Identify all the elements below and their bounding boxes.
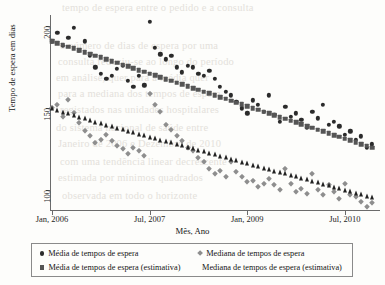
- triangle-data-point: [337, 186, 341, 191]
- triangle-data-point: [175, 141, 179, 146]
- x-tick-label: Jan, 2009: [231, 214, 264, 224]
- triangle-data-point: [66, 111, 70, 116]
- diamond-data-point: [255, 184, 261, 190]
- square-data-point: [93, 53, 98, 58]
- circle-marker-icon: [40, 251, 44, 255]
- diamond-data-point: [157, 109, 163, 115]
- square-data-point: [234, 100, 239, 105]
- square-data-point: [364, 143, 369, 148]
- diamond-data-point: [125, 151, 131, 157]
- diamond-data-point: [212, 171, 218, 177]
- diamond-data-point: [342, 181, 348, 187]
- square-data-point: [185, 84, 190, 89]
- square-data-point: [88, 52, 93, 57]
- circle-data-point: [294, 111, 298, 115]
- square-data-point: [277, 115, 282, 120]
- square-data-point: [305, 124, 310, 129]
- triangle-data-point: [77, 114, 81, 119]
- triangle-data-point: [180, 143, 184, 148]
- triangle-data-point: [213, 152, 217, 157]
- legend-item-label: Média de tempos de espera: [48, 249, 138, 258]
- triangle-data-point: [207, 150, 211, 155]
- square-data-point: [99, 55, 104, 60]
- diamond-data-point: [76, 120, 82, 126]
- circle-data-point: [82, 39, 86, 43]
- y-tick-label: 100: [42, 190, 52, 203]
- x-tick-label: Jul, 2007: [134, 214, 165, 224]
- triangle-data-point: [327, 183, 331, 188]
- circle-data-point: [185, 64, 189, 68]
- square-data-point: [50, 39, 55, 44]
- triangle-data-point: [191, 146, 195, 151]
- diamond-data-point: [60, 113, 66, 119]
- square-data-point: [131, 66, 136, 71]
- circle-data-point: [110, 73, 114, 77]
- circle-data-point: [99, 72, 103, 76]
- triangle-data-point: [256, 164, 260, 169]
- y-tick-label: 200: [42, 26, 52, 39]
- square-data-point: [218, 95, 223, 100]
- square-data-point: [180, 82, 185, 87]
- circle-data-point: [218, 85, 222, 89]
- square-data-point: [71, 46, 76, 51]
- square-data-point: [174, 80, 179, 85]
- square-data-point: [82, 50, 87, 55]
- circle-data-point: [175, 65, 179, 69]
- triangle-data-point: [196, 147, 200, 152]
- plot-area: 200150100 Jan, 2006Jul, 2007Jan, 2009Jul…: [50, 15, 380, 210]
- square-data-point: [337, 134, 342, 139]
- chart-legend: Média de tempos de esperaMédia de tempos…: [31, 243, 353, 277]
- circle-data-point: [310, 110, 314, 114]
- triangle-data-point: [131, 130, 135, 135]
- circle-data-point: [213, 77, 217, 81]
- diamond-data-point: [152, 102, 158, 108]
- square-data-point: [158, 75, 163, 80]
- circle-data-point: [229, 93, 233, 97]
- diamond-data-point: [141, 153, 147, 159]
- triangle-data-point: [289, 172, 293, 177]
- diamond-data-point: [288, 181, 294, 187]
- legend-item-label: Média de tempos de espera (estimativa): [48, 263, 180, 272]
- diamond-data-point: [250, 177, 256, 183]
- diamond-data-point: [315, 187, 321, 193]
- circle-data-point: [115, 67, 119, 71]
- square-data-point: [126, 64, 131, 69]
- legend-item-label: Mediana de tempos de espera: [206, 249, 304, 258]
- diamond-data-point: [147, 91, 153, 97]
- triangle-data-point: [88, 117, 92, 122]
- diamond-marker-icon: [197, 251, 203, 257]
- circle-data-point: [359, 134, 363, 138]
- triangle-data-point: [348, 189, 352, 194]
- diamond-data-point: [271, 182, 277, 188]
- triangle-data-point: [272, 168, 276, 173]
- circle-data-point: [126, 78, 130, 82]
- circle-data-point: [332, 119, 336, 123]
- circle-data-point: [137, 73, 141, 77]
- square-data-point: [61, 43, 66, 48]
- circle-data-point: [267, 93, 271, 97]
- circle-data-point: [169, 54, 173, 58]
- triangle-data-point: [169, 140, 173, 145]
- triangle-data-point: [370, 195, 374, 200]
- triangle-data-point: [305, 177, 309, 182]
- diamond-data-point: [174, 133, 180, 139]
- circle-data-point: [207, 69, 211, 73]
- diamond-data-point: [277, 187, 283, 193]
- square-marker-icon: [40, 265, 44, 269]
- circle-data-point: [326, 123, 330, 127]
- square-data-point: [229, 98, 234, 103]
- x-axis-title: Mês, Ano: [0, 226, 385, 236]
- triangle-data-point: [332, 184, 336, 189]
- circle-data-point: [240, 106, 244, 110]
- diamond-data-point: [81, 128, 87, 134]
- triangle-data-point: [321, 181, 325, 186]
- circle-data-point: [158, 52, 162, 56]
- triangle-data-point: [153, 136, 157, 141]
- triangle-data-point: [218, 153, 222, 158]
- legend-item-label: Mediana de tempos de espera (estimativa): [202, 263, 342, 272]
- triangle-data-point: [278, 169, 282, 174]
- legend-item: Mediana de tempos de espera (estimativa): [198, 263, 342, 272]
- circle-data-point: [251, 98, 255, 102]
- triangle-data-point: [164, 139, 168, 144]
- triangle-data-point: [262, 165, 266, 170]
